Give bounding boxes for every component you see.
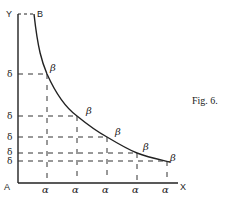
b-label: B bbox=[37, 9, 43, 19]
delta-label: δ bbox=[7, 69, 12, 79]
alpha-label: α bbox=[42, 184, 49, 195]
x-axis-label: X bbox=[180, 182, 186, 192]
beta-label: β bbox=[85, 105, 92, 116]
beta-label: β bbox=[169, 152, 176, 163]
alpha-label: α bbox=[72, 184, 79, 195]
delta-label: δ bbox=[7, 132, 12, 142]
hyperbola-diagram: Y B A X β β β β β δ δ δ δ δ α α α α α Fi… bbox=[0, 0, 229, 202]
alpha-label: α bbox=[132, 184, 139, 195]
delta-label: δ bbox=[7, 156, 12, 166]
alpha-label: α bbox=[102, 184, 109, 195]
origin-label: A bbox=[4, 182, 10, 192]
y-axis-label: Y bbox=[6, 9, 12, 19]
delta-label: δ bbox=[7, 111, 12, 121]
vertical-dashed-lines bbox=[47, 74, 167, 180]
alpha-label: α bbox=[162, 184, 169, 195]
beta-label: β bbox=[114, 126, 121, 137]
beta-label: β bbox=[142, 141, 149, 152]
curve bbox=[34, 14, 170, 162]
figure-caption: Fig. 6. bbox=[192, 95, 218, 106]
beta-label: β bbox=[49, 62, 56, 73]
